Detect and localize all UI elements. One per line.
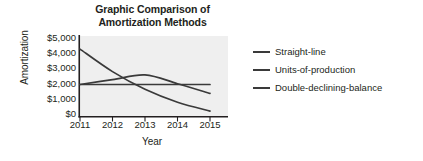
legend-item-units-of-production: Units-of-production (253, 62, 421, 77)
legend-item-straight-line: Straight-line (253, 44, 421, 59)
legend-line-swatch-icon (253, 51, 270, 53)
legend-line-swatch-icon (253, 69, 270, 71)
x-tick-label: 2011 (70, 120, 90, 130)
legend-item-double-declining-balance: Double-declining-balance (253, 80, 421, 95)
legend-line-swatch-icon (253, 87, 270, 89)
x-tick-label: 2012 (102, 120, 123, 130)
x-tick-label: 2015 (199, 120, 220, 130)
x-axis-tick-labels: 2011 2012 2013 2014 2015 (0, 120, 423, 134)
x-tick-label: 2013 (134, 120, 155, 130)
x-tick-label: 2014 (167, 120, 188, 130)
legend-item-label: Units-of-production (275, 65, 355, 75)
legend-item-label: Straight-line (275, 47, 326, 57)
chart-legend: Straight-line Units-of-production Double… (253, 44, 421, 98)
legend-item-label: Double-declining-balance (275, 83, 382, 93)
amortization-comparison-chart: Graphic Comparison of Amortization Metho… (0, 0, 423, 161)
